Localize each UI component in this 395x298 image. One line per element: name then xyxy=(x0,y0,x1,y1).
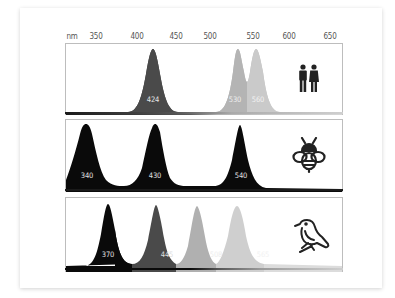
axis-tick: 350 xyxy=(89,32,102,41)
axis-unit-label: nm xyxy=(66,32,77,41)
bird-icon xyxy=(292,219,332,253)
axis-tick: 600 xyxy=(282,32,295,41)
axis-tick: 450 xyxy=(169,32,182,41)
bee-spectrum-panel: 340 430 540 xyxy=(65,119,343,192)
peak-label: 565 xyxy=(257,250,269,259)
peak-label: 445 xyxy=(161,250,173,259)
bee-icon xyxy=(292,137,326,175)
peak-label: 530 xyxy=(229,95,241,104)
human-spectrum-panel: 424 530 560 xyxy=(65,43,343,115)
peak-label: 560 xyxy=(252,95,264,104)
peak-label: 424 xyxy=(147,95,159,104)
human-baseline xyxy=(65,112,343,114)
bee-baseline xyxy=(65,189,343,191)
peak-label: 340 xyxy=(81,171,93,180)
peak-label: 370 xyxy=(102,250,114,259)
axis-tick: 650 xyxy=(323,32,336,41)
peak-label: 508 xyxy=(210,250,222,259)
axis-tick: 400 xyxy=(130,32,143,41)
axis-tick: 500 xyxy=(203,32,216,41)
axis-tick: 550 xyxy=(246,32,259,41)
bird-spectrum-panel: 370 445 508 565 xyxy=(65,197,343,272)
bird-baseline xyxy=(65,268,343,270)
human-couple-icon xyxy=(296,64,322,94)
peak-label: 540 xyxy=(235,171,247,180)
peak-label: 430 xyxy=(149,171,161,180)
